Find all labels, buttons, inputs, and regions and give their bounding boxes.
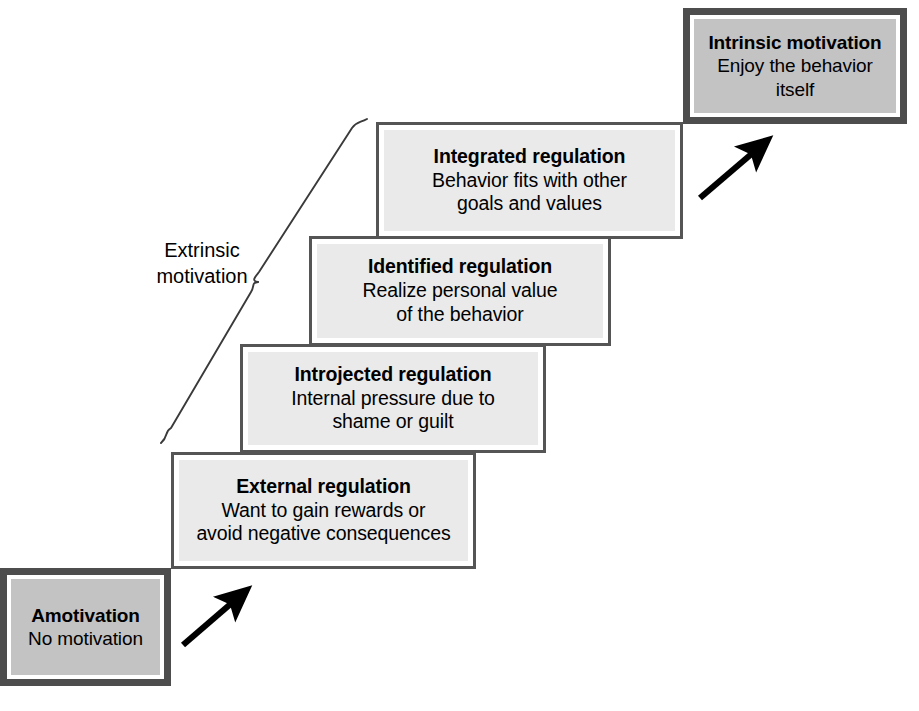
step-desc-integrated-regulation-line2: goals and values — [457, 192, 602, 216]
extrinsic-motivation-label: Extrinsic motivation — [104, 238, 300, 289]
step-inner-external-regulation: External regulation Want to gain rewards… — [174, 455, 473, 566]
step-title-intrinsic-motivation: Intrinsic motivation — [708, 31, 881, 54]
step-box-intrinsic-motivation: Intrinsic motivation Enjoy the behavior … — [683, 8, 907, 124]
step-desc-introjected-regulation-line2: shame or guilt — [332, 410, 453, 434]
step-desc-identified-regulation-line2: of the behavior — [396, 303, 524, 327]
arrow-integrated-to-intrinsic — [700, 145, 762, 198]
step-title-amotivation: Amotivation — [31, 604, 140, 627]
step-title-integrated-regulation: Integrated regulation — [434, 145, 626, 169]
extrinsic-motivation-label-line2: motivation — [104, 264, 300, 290]
step-box-introjected-regulation: Introjected regulation Internal pressure… — [240, 344, 546, 453]
step-box-amotivation: Amotivation No motivation — [0, 568, 171, 686]
step-desc-introjected-regulation-line1: Internal pressure due to — [291, 387, 495, 411]
step-box-integrated-regulation: Integrated regulation Behavior fits with… — [376, 122, 683, 239]
step-box-external-regulation: External regulation Want to gain rewards… — [171, 452, 476, 569]
diagram-canvas: Amotivation No motivation External regul… — [0, 0, 919, 711]
step-title-introjected-regulation: Introjected regulation — [294, 363, 491, 387]
step-inner-intrinsic-motivation: Intrinsic motivation Enjoy the behavior … — [690, 15, 900, 117]
step-inner-amotivation: Amotivation No motivation — [7, 575, 164, 679]
arrow-amotivation-to-external — [183, 595, 241, 645]
extrinsic-motivation-label-line1: Extrinsic — [104, 238, 300, 264]
step-desc-intrinsic-motivation-line2: itself — [776, 78, 814, 101]
step-desc-external-regulation-line1: Want to gain rewards or — [222, 499, 426, 523]
step-desc-integrated-regulation-line1: Behavior fits with other — [432, 169, 627, 193]
step-inner-integrated-regulation: Integrated regulation Behavior fits with… — [379, 125, 680, 236]
step-title-external-regulation: External regulation — [236, 475, 411, 499]
step-inner-introjected-regulation: Introjected regulation Internal pressure… — [243, 347, 543, 450]
step-box-identified-regulation: Identified regulation Realize personal v… — [309, 236, 611, 346]
step-desc-identified-regulation-line1: Realize personal value — [362, 279, 557, 303]
step-desc-external-regulation-line2: avoid negative consequences — [196, 522, 450, 546]
step-desc-amotivation-line1: No motivation — [28, 627, 143, 650]
step-desc-intrinsic-motivation-line1: Enjoy the behavior — [717, 54, 873, 77]
step-title-identified-regulation: Identified regulation — [368, 255, 552, 279]
step-inner-identified-regulation: Identified regulation Realize personal v… — [312, 239, 608, 343]
